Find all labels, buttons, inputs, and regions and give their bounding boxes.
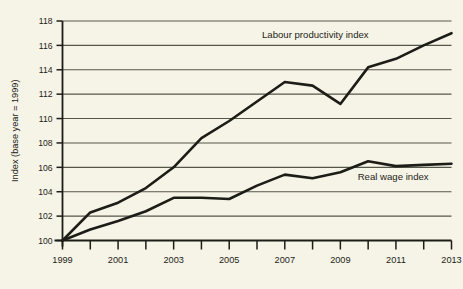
axis-titles: Index (base year = 1999) [10,80,20,182]
chart-container: 100102104106108110112114116118 199920012… [0,0,463,289]
x-tick-label: 1999 [52,255,72,265]
x-tick-label: 2009 [330,255,350,265]
y-tick-label: 114 [39,65,53,75]
y-tick-label: 102 [38,211,53,221]
y-tick-label: 106 [38,163,53,173]
x-tick-label: 2007 [275,255,295,265]
x-tick-label: 2003 [163,255,183,265]
chart-background [0,0,463,289]
x-tick-label: 2005 [219,255,239,265]
y-axis-title: Index (base year = 1999) [10,80,20,182]
y-tick-label: 116 [39,41,53,51]
x-tick-label: 2011 [386,255,406,265]
y-tick-label: 108 [38,138,53,148]
y-tick-label: 104 [38,187,53,197]
line-chart: 100102104106108110112114116118 199920012… [0,0,463,289]
x-tick-label: 2001 [108,255,128,265]
y-tick-label: 118 [39,16,53,26]
y-tick-label: 112 [39,89,53,99]
series-annotation-1: Labour productivity index [262,29,369,40]
y-tick-label: 110 [39,114,53,124]
series-annotation-2: Real wage index [358,171,429,182]
y-tick-label: 100 [38,236,53,246]
x-tick-label: 2013 [441,255,461,265]
